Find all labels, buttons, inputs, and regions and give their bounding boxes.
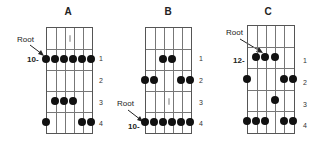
row-label: 4 (303, 122, 307, 129)
start-fret-label: 12- (233, 56, 245, 65)
finger-dot (42, 55, 50, 63)
finger-dot (186, 118, 194, 126)
finger-dot (51, 97, 59, 105)
row-label: 3 (199, 99, 203, 106)
string-line (56, 28, 57, 133)
finger-dot (271, 96, 279, 104)
finger-dot (69, 55, 77, 63)
finger-dot (42, 118, 50, 126)
fret-line (146, 112, 191, 113)
finger-dot (69, 97, 77, 105)
fret-line (47, 91, 92, 92)
string-line (65, 28, 66, 133)
fret-line (47, 49, 92, 50)
finger-dot (168, 55, 176, 63)
fret-line (146, 70, 191, 71)
finger-dot (289, 75, 297, 83)
inlay-marker-icon (168, 98, 170, 105)
finger-dot (141, 118, 149, 126)
finger-dot (141, 76, 149, 84)
finger-dot (60, 97, 68, 105)
finger-dot (78, 55, 86, 63)
row-label: 2 (199, 77, 203, 84)
finger-dot (280, 75, 288, 83)
row-label: 1 (303, 57, 307, 64)
fretboard-grid (46, 27, 93, 134)
string-line (74, 28, 75, 133)
chord-diagram-a: A Root 10- 1 2 3 4 (0, 0, 110, 149)
finger-dot (159, 118, 167, 126)
fret-line (248, 111, 294, 112)
finger-dot (252, 117, 260, 125)
finger-dot (271, 53, 279, 61)
fretboard-grid (145, 27, 192, 134)
finger-dot (177, 118, 185, 126)
finger-dot (150, 118, 158, 126)
string-line (275, 26, 276, 133)
finger-dot (150, 76, 158, 84)
fret-line (248, 68, 294, 69)
fret-line (146, 91, 191, 92)
fret-line (146, 49, 191, 50)
finger-dot (87, 55, 95, 63)
row-label: 4 (199, 120, 203, 127)
fret-line (248, 90, 294, 91)
finger-dot (159, 55, 167, 63)
fretboard-grid (247, 25, 295, 134)
finger-dot (168, 118, 176, 126)
start-fret-label: 10- (27, 55, 39, 64)
chord-diagram-b: B Root 10- 1 2 3 4 (100, 0, 210, 149)
finger-dot (243, 75, 251, 83)
finger-dot (186, 76, 194, 84)
finger-dot (60, 55, 68, 63)
finger-dot (280, 117, 288, 125)
row-label: 3 (303, 101, 307, 108)
start-fret-label: 10- (128, 122, 140, 131)
finger-dot (87, 118, 95, 126)
fret-line (47, 112, 92, 113)
row-label: 1 (199, 55, 203, 62)
row-label: 2 (303, 79, 307, 86)
finger-dot (252, 53, 260, 61)
inlay-marker-icon (69, 35, 71, 42)
fret-line (248, 47, 294, 48)
finger-dot (78, 118, 86, 126)
finger-dot (261, 117, 269, 125)
finger-dot (51, 55, 59, 63)
finger-dot (177, 76, 185, 84)
fret-line (47, 70, 92, 71)
chord-diagram-c: C Root 12- 1 2 3 4 (210, 0, 320, 149)
finger-dot (261, 53, 269, 61)
finger-dot (243, 117, 251, 125)
